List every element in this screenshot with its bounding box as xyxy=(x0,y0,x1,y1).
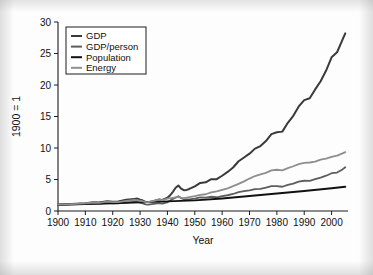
y-tick-label: 5 xyxy=(45,174,51,185)
x-tick-label: 1990 xyxy=(293,217,316,228)
x-tick-label: 1920 xyxy=(102,217,125,228)
chart-screenshot: 0510152025301900191019201930194019501960… xyxy=(0,0,373,275)
y-tick-label: 25 xyxy=(40,48,52,59)
x-tick-label: 1930 xyxy=(129,217,152,228)
x-tick-label: 1900 xyxy=(47,217,70,228)
legend-label-gdp: GDP xyxy=(86,30,107,41)
legend-label-population: Population xyxy=(86,52,131,63)
x-tick-label: 1970 xyxy=(238,217,261,228)
x-tick-label: 1980 xyxy=(266,217,289,228)
y-tick-label: 15 xyxy=(40,111,52,122)
x-tick-label: 1960 xyxy=(211,217,234,228)
x-tick-label: 1940 xyxy=(156,217,179,228)
x-axis-title: Year xyxy=(192,234,214,246)
legend-label-gdp-person: GDP/person xyxy=(86,41,138,52)
x-tick-label: 2000 xyxy=(320,217,343,228)
y-tick-label: 0 xyxy=(45,206,51,217)
legend-label-energy: Energy xyxy=(86,62,116,73)
y-axis-title: 1900 = 1 xyxy=(10,96,22,137)
x-tick-label: 1950 xyxy=(184,217,207,228)
y-tick-label: 20 xyxy=(40,80,52,91)
x-tick-label: 1910 xyxy=(74,217,97,228)
y-tick-label: 30 xyxy=(40,17,52,28)
y-tick-label: 10 xyxy=(40,143,52,154)
line-chart: 0510152025301900191019201930194019501960… xyxy=(0,0,373,275)
legend: GDPGDP/personPopulationEnergy xyxy=(66,27,146,74)
